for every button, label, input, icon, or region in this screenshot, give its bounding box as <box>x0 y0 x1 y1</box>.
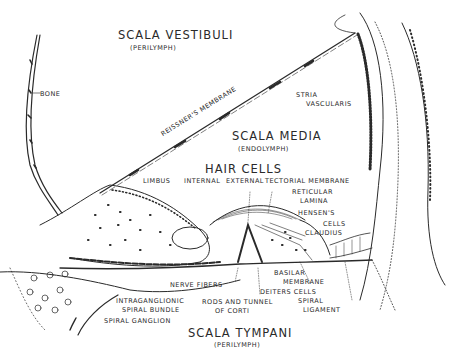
label-nerve-fibers: NERVE FIBERS <box>170 282 223 289</box>
label-hair-cells-external: EXTERNAL <box>226 178 264 185</box>
label-scala-media-endolymph: (ENDOLYMPH) <box>238 146 289 153</box>
label-intraganglionic-2: SPIRAL BUNDLE <box>122 307 180 314</box>
label-scala-media: SCALA MEDIA <box>232 131 322 143</box>
label-hensens-cells: CELLS <box>323 221 346 228</box>
label-basilar-1: BASILAR <box>274 270 305 277</box>
label-reticular-lamina-1: RETICULAR <box>292 189 333 196</box>
label-rods-tunnel-2: OF CORTI <box>215 308 250 315</box>
organ-of-corti <box>210 206 372 262</box>
label-deiters-cells: DEITERS CELLS <box>260 289 316 296</box>
label-stria-vascularis-2: VASCULARIS <box>306 101 352 108</box>
label-intraganglionic-1: INTRAGANGLIONIC <box>116 298 184 305</box>
label-scala-tympani-perilymph: (PERILYMPH) <box>214 342 260 349</box>
label-rods-tunnel-1: RODS AND TUNNEL <box>202 299 273 306</box>
label-scala-vestibuli-perilymph: (PERILYMPH) <box>130 45 176 52</box>
label-hair-cells: HAIR CELLS <box>205 164 282 176</box>
label-hensens-1: HENSEN'S <box>298 210 335 217</box>
label-spiral-ligament-1: SPIRAL <box>298 298 323 305</box>
label-spiral-ligament-2: LIGAMENT <box>303 307 341 314</box>
spiral-ganglion <box>10 268 76 330</box>
label-limbus: LIMBUS <box>143 178 171 185</box>
label-stria-vascularis-1: STRIA <box>296 92 317 99</box>
label-bone: BONE <box>40 91 60 98</box>
limbus <box>40 185 209 266</box>
label-basilar-2: MEMBRANE <box>283 279 324 286</box>
label-claudius: CLAUDIUS <box>305 230 342 237</box>
bone-wall <box>26 35 62 215</box>
basilar-membrane <box>0 258 395 335</box>
label-spiral-ganglion: SPIRAL GANGLION <box>104 318 171 325</box>
label-scala-vestibuli: SCALA VESTIBULI <box>118 30 233 42</box>
label-tectorial-membrane: TECTORIAL MEMBRANE <box>265 178 350 185</box>
label-reticular-lamina-2: LAMINA <box>300 198 328 205</box>
label-hair-cells-internal: INTERNAL <box>184 178 220 185</box>
label-scala-tympani: SCALA TYMPANI <box>188 328 292 340</box>
stria-vascularis <box>335 13 445 310</box>
